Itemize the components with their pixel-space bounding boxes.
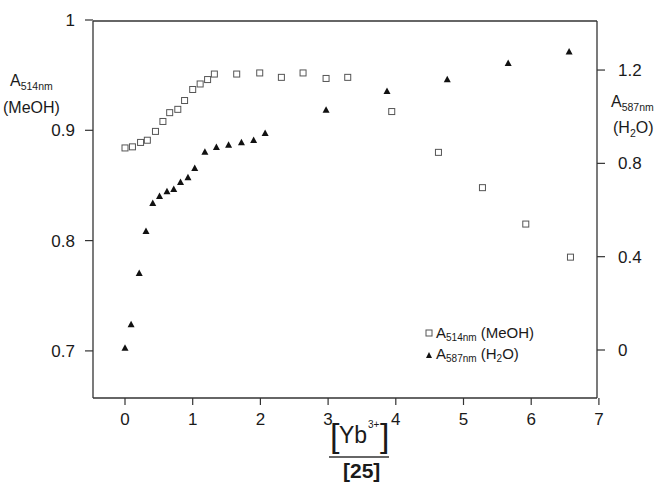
- legend-triangle-marker-icon: [426, 352, 432, 358]
- data-point-triangle: [184, 174, 191, 181]
- data-point-square: [152, 128, 158, 134]
- x-title-numerator-superscript: 3+: [368, 419, 380, 430]
- x-tick-label: 7: [594, 410, 603, 429]
- data-point-square: [300, 70, 306, 76]
- legend: A514nm (MeOH) A587nm (H2O): [426, 324, 534, 364]
- data-point-square: [138, 139, 144, 145]
- dual-axis-scatter-chart: 01234567 0.70.80.91 00.40.81.2 A514nm (M…: [0, 0, 670, 492]
- left-y-tick-label: 0.9: [51, 121, 75, 140]
- data-point-triangle: [250, 137, 257, 144]
- data-point-triangle: [323, 106, 330, 113]
- data-point-square: [122, 145, 128, 151]
- right-y-tick-label: 0: [618, 341, 627, 360]
- data-point-square: [389, 109, 395, 115]
- data-point-square: [523, 221, 529, 227]
- data-point-square: [144, 137, 150, 143]
- right-y-tick-label: 0.4: [618, 248, 642, 267]
- data-point-square: [345, 74, 351, 80]
- x-title-denominator: [25]: [343, 459, 380, 482]
- right-y-axis-title: A587nm: [611, 93, 654, 113]
- series-a514nm-meoh: [122, 70, 573, 260]
- data-point-square: [197, 81, 203, 87]
- data-point-triangle: [262, 130, 269, 137]
- data-point-square: [167, 110, 173, 116]
- right-y-tick-label: 1.2: [618, 61, 642, 80]
- left-y-axis-title: A514nm: [10, 72, 53, 92]
- legend-square-marker-icon: [426, 330, 432, 336]
- data-point-triangle: [122, 344, 129, 351]
- x-tick-label: 6: [526, 410, 535, 429]
- x-tick-label: 5: [459, 410, 468, 429]
- data-point-triangle: [128, 321, 135, 328]
- left-y-tick-label: 0.8: [51, 232, 75, 251]
- x-tick-label: 0: [120, 410, 129, 429]
- series-a587nm-h2o: [122, 48, 573, 351]
- right-y-axis-title-line2: (H2O): [613, 119, 654, 139]
- data-point-triangle: [566, 48, 573, 55]
- data-point-triangle: [213, 144, 220, 151]
- data-point-triangle: [191, 165, 198, 172]
- data-point-triangle: [142, 228, 149, 235]
- data-point-square: [278, 74, 284, 80]
- x-tick-label: 2: [256, 410, 265, 429]
- left-y-axis-title-line2: (MeOH): [3, 99, 60, 116]
- data-point-triangle: [156, 193, 163, 200]
- data-point-square: [211, 71, 217, 77]
- data-point-square: [205, 77, 211, 83]
- data-point-triangle: [505, 60, 512, 67]
- left-y-tick-label: 0.7: [51, 342, 75, 361]
- data-point-square: [479, 185, 485, 191]
- data-point-triangle: [383, 88, 390, 95]
- data-point-triangle: [177, 179, 184, 186]
- data-point-triangle: [201, 148, 208, 155]
- x-tick-label: 1: [188, 410, 197, 429]
- data-point-square: [129, 144, 135, 150]
- data-point-square: [175, 106, 181, 112]
- data-point-square: [160, 118, 166, 124]
- data-point-square: [234, 71, 240, 77]
- data-point-triangle: [238, 139, 245, 146]
- data-point-square: [257, 70, 263, 76]
- left-y-tick-label: 1: [66, 11, 75, 30]
- left-y-axis-ticks: 0.70.80.91: [51, 11, 93, 361]
- data-point-square: [182, 98, 188, 104]
- data-point-triangle: [170, 186, 177, 193]
- legend-label-a587nm: A587nm (H2O): [436, 345, 519, 364]
- x-tick-label: 4: [391, 410, 400, 429]
- right-y-tick-label: 0.8: [618, 154, 642, 173]
- legend-label-a514nm: A514nm (MeOH): [436, 324, 534, 343]
- data-point-triangle: [136, 270, 143, 277]
- x-title-numerator: Yb: [339, 422, 367, 448]
- data-point-triangle: [225, 141, 232, 148]
- data-point-square: [567, 254, 573, 260]
- x-axis-title: [ Yb 3+ ] [25]: [329, 416, 389, 482]
- data-point-square: [435, 149, 441, 155]
- data-point-square: [190, 86, 196, 92]
- data-point-square: [323, 75, 329, 81]
- data-point-triangle: [149, 200, 156, 207]
- x-title-close-bracket: ]: [380, 416, 389, 454]
- data-point-triangle: [444, 76, 451, 83]
- data-point-triangle: [163, 188, 170, 195]
